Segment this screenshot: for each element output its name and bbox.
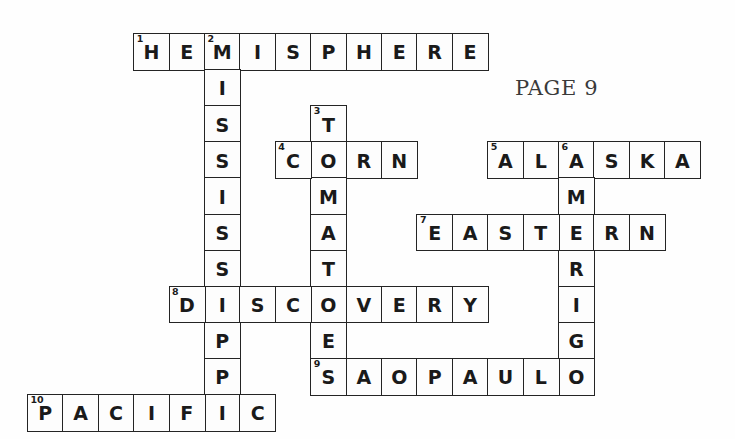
crossword-cell[interactable]: C xyxy=(98,394,135,432)
cell-letter: C xyxy=(286,152,300,171)
crossword-cell[interactable]: S xyxy=(593,141,630,179)
crossword-cell[interactable]: F xyxy=(169,394,206,432)
crossword-cell[interactable]: I xyxy=(204,69,241,107)
cell-letter: A xyxy=(356,368,371,387)
crossword-cell[interactable]: S xyxy=(239,286,276,324)
crossword-cell[interactable]: R xyxy=(346,141,383,179)
cell-letter: C xyxy=(286,296,300,315)
cell-letter: T xyxy=(322,116,335,135)
crossword-cell[interactable]: K xyxy=(629,141,666,179)
cell-letter: E xyxy=(180,43,193,62)
crossword-cell[interactable]: R xyxy=(593,214,630,252)
crossword-cell[interactable]: R xyxy=(558,250,595,288)
cell-letter: E xyxy=(464,43,477,62)
crossword-cell[interactable]: R xyxy=(416,286,453,324)
crossword-cell[interactable]: P xyxy=(204,358,241,396)
crossword-cell[interactable]: E xyxy=(381,33,418,71)
crossword-cell[interactable]: 1H xyxy=(133,33,170,71)
clue-number: 4 xyxy=(278,142,285,152)
crossword-cell[interactable]: R xyxy=(416,33,453,71)
crossword-cell[interactable]: V xyxy=(346,286,383,324)
cell-letter: P xyxy=(428,368,442,387)
crossword-cell[interactable]: I xyxy=(558,286,595,324)
cell-letter: E xyxy=(393,296,406,315)
crossword-cell[interactable]: N xyxy=(381,141,418,179)
crossword-cell[interactable]: E xyxy=(558,214,595,252)
crossword-cell[interactable]: G xyxy=(558,322,595,360)
crossword-cell[interactable]: E xyxy=(452,33,489,71)
crossword-cell[interactable]: A xyxy=(310,214,347,252)
crossword-cell[interactable]: I xyxy=(204,394,241,432)
crossword-cell[interactable]: A xyxy=(452,214,489,252)
cell-letter: E xyxy=(428,224,441,243)
crossword-cell[interactable]: 5A xyxy=(487,141,524,179)
cell-letter: T xyxy=(322,260,335,279)
crossword-cell[interactable]: E xyxy=(169,33,206,71)
crossword-cell[interactable]: S xyxy=(204,105,241,143)
crossword-cell[interactable]: L xyxy=(523,141,560,179)
page-label: PAGE 9 xyxy=(515,76,598,100)
crossword-cell[interactable]: O xyxy=(558,358,595,396)
cell-letter: H xyxy=(356,43,372,62)
crossword-cell[interactable]: E xyxy=(381,286,418,324)
crossword-cell[interactable]: O xyxy=(310,286,347,324)
crossword-cell[interactable]: I xyxy=(204,286,241,324)
crossword-cell[interactable]: N xyxy=(629,214,666,252)
cell-letter: S xyxy=(322,368,336,387)
cell-letter: C xyxy=(251,404,265,423)
crossword-cell[interactable]: 3T xyxy=(310,105,347,143)
crossword-cell[interactable]: T xyxy=(523,214,560,252)
cell-letter: L xyxy=(535,368,548,387)
crossword-cell[interactable]: C xyxy=(275,286,312,324)
cell-letter: I xyxy=(254,43,262,62)
cell-letter: S xyxy=(215,260,229,279)
crossword-cell[interactable]: Y xyxy=(452,286,489,324)
cell-letter: P xyxy=(215,368,229,387)
clue-number: 3 xyxy=(314,106,321,116)
crossword-cell[interactable]: I xyxy=(204,177,241,215)
crossword-cell[interactable]: S xyxy=(204,141,241,179)
crossword-cell[interactable]: S xyxy=(204,214,241,252)
crossword-cell[interactable]: P xyxy=(310,33,347,71)
crossword-cell[interactable]: A xyxy=(664,141,701,179)
clue-number: 8 xyxy=(172,287,179,297)
cell-letter: S xyxy=(215,152,229,171)
crossword-cell[interactable]: S xyxy=(204,250,241,288)
cell-letter: P xyxy=(38,404,52,423)
crossword-cell[interactable]: P xyxy=(416,358,453,396)
cell-letter: A xyxy=(73,404,88,423)
cell-letter: U xyxy=(498,368,514,387)
crossword-cell[interactable]: H xyxy=(346,33,383,71)
crossword-cell[interactable]: U xyxy=(487,358,524,396)
crossword-cell[interactable]: C xyxy=(239,394,276,432)
crossword-cell[interactable]: 2M xyxy=(204,33,241,71)
crossword-cell[interactable]: P xyxy=(204,322,241,360)
clue-number: 6 xyxy=(562,142,569,152)
cell-letter: N xyxy=(639,224,655,243)
crossword-cell[interactable]: S xyxy=(275,33,312,71)
crossword-cell[interactable]: 8D xyxy=(169,286,206,324)
crossword-cell[interactable]: 4C xyxy=(275,141,312,179)
cell-letter: S xyxy=(499,224,513,243)
crossword-cell[interactable]: 6A xyxy=(558,141,595,179)
crossword-cell[interactable]: I xyxy=(133,394,170,432)
cell-letter: M xyxy=(213,43,232,62)
crossword-cell[interactable]: 7E xyxy=(416,214,453,252)
crossword-cell[interactable]: M xyxy=(310,177,347,215)
cell-letter: D xyxy=(179,296,195,315)
crossword-cell[interactable]: E xyxy=(310,322,347,360)
crossword-cell[interactable]: A xyxy=(452,358,489,396)
crossword-cell[interactable]: M xyxy=(558,177,595,215)
crossword-cell[interactable]: I xyxy=(239,33,276,71)
cell-letter: Y xyxy=(463,296,477,315)
crossword-cell[interactable]: A xyxy=(62,394,99,432)
crossword-cell[interactable]: A xyxy=(346,358,383,396)
crossword-cell[interactable]: O xyxy=(310,141,347,179)
cell-letter: O xyxy=(568,368,585,387)
crossword-cell[interactable]: L xyxy=(523,358,560,396)
crossword-cell[interactable]: S xyxy=(487,214,524,252)
crossword-cell[interactable]: 10P xyxy=(27,394,64,432)
crossword-cell[interactable]: T xyxy=(310,250,347,288)
crossword-cell[interactable]: O xyxy=(381,358,418,396)
crossword-cell[interactable]: 9S xyxy=(310,358,347,396)
